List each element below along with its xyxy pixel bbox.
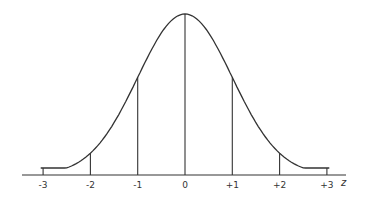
z-axis-label: z <box>341 177 346 188</box>
normal-curve-chart <box>0 0 370 206</box>
x-tick-label: +1 <box>226 180 239 190</box>
x-tick-label: 0 <box>182 180 188 190</box>
x-tick-label: +3 <box>320 180 333 190</box>
x-tick-label: +2 <box>273 180 286 190</box>
x-tick-label: -3 <box>39 180 48 190</box>
x-tick-label: -1 <box>133 180 142 190</box>
z-vertical-lines <box>43 14 327 175</box>
x-tick-label: -2 <box>86 180 95 190</box>
